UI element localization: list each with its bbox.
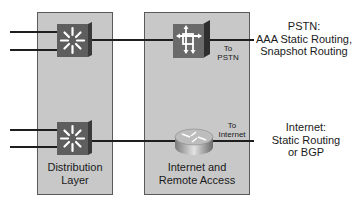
internet-annotation: Internet: Static Routing or BGP [266, 121, 346, 159]
link-line-to-internet [90, 140, 254, 142]
link-line-to-pstn [90, 39, 254, 41]
router-icon [174, 127, 214, 157]
link-line [10, 31, 58, 33]
to-internet-label: To Internet [214, 121, 250, 139]
internet-remote-access-label: Internet and Remote Access [144, 161, 250, 186]
to-pstn-label: To PSTN [213, 44, 243, 62]
multilayer-switch-icon [57, 22, 92, 57]
link-line [10, 146, 58, 148]
access-server-icon [173, 20, 210, 58]
distribution-layer-label: Distribution Layer [37, 161, 113, 186]
link-line [10, 129, 58, 131]
pstn-annotation: PSTN: AAA Static Routing, Snapshot Routi… [254, 20, 354, 58]
link-line [10, 49, 58, 51]
multilayer-switch-icon [57, 120, 92, 155]
